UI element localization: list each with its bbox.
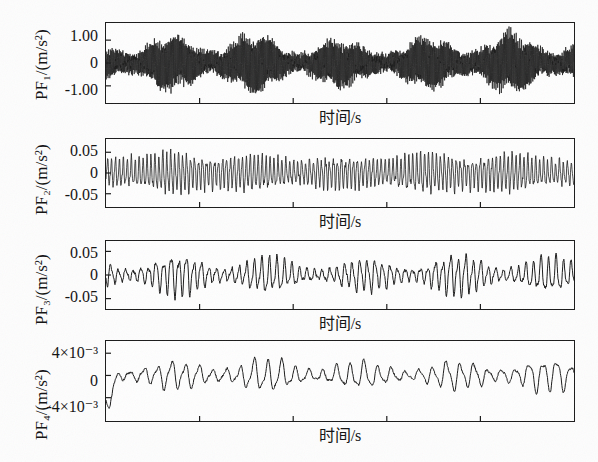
PF2-waveform [106,139,574,207]
ytick: -4×10⁻³ [46,399,98,415]
ytick: 4×10⁻³ [52,345,98,361]
panel-pf3-xlabel: 时间/s [105,310,575,334]
ytick: -1.00 [65,82,98,98]
panel-pf2-plot [105,138,575,208]
PF4-waveform [106,341,574,421]
ytick: -0.05 [65,289,98,305]
ytick: 0.05 [70,245,98,261]
panel-pf4-plot [105,340,575,422]
panel-pf2-yticks: 0.05 0 -0.05 [40,138,98,208]
panel-pf4-yticks: 4×10⁻³ 0 -4×10⁻³ [28,340,98,422]
signal-decomposition-figure: PF₁/(m/s²) 1.00 0 -1.00 时间/s PF₂/(m/s²) … [0,0,598,462]
ytick: 0 [90,373,98,389]
ytick: -0.05 [65,187,98,203]
panel-pf2-xlabel: 时间/s [105,208,575,232]
ytick: 0.05 [70,143,98,159]
panel-pf3-yticks: 0.05 0 -0.05 [40,240,98,310]
ytick: 0 [90,267,98,283]
PF3-waveform [106,241,574,309]
panel-pf1-plot [105,22,575,104]
ytick: 0 [90,55,98,71]
panel-pf2: PF₂/(m/s²) 0.05 0 -0.05 时间/s [0,120,598,230]
panel-pf2-ylabel: PF₂/(m/s²) [32,214,33,215]
panel-pf1-ylabel: PF₁/(m/s²) [32,99,33,100]
panel-pf1: PF₁/(m/s²) 1.00 0 -1.00 时间/s [0,0,598,120]
panel-pf1-yticks: 1.00 0 -1.00 [40,22,98,104]
PF1-waveform [106,23,574,103]
panel-pf4-xlabel: 时间/s [105,422,575,446]
panel-pf3-plot [105,240,575,310]
panel-pf4: PF₄/(m/s²) 4×10⁻³ 0 -4×10⁻³ 时间/s [0,340,598,462]
ytick: 0 [90,165,98,181]
ytick: 1.00 [70,28,98,44]
panel-pf4-ylabel: PF₄/(m/s²) [32,439,33,440]
panel-pf3: PF₃/(m/s²) 0.05 0 -0.05 时间/s [0,230,598,340]
panel-pf3-ylabel: PF₃/(m/s²) [32,324,33,325]
